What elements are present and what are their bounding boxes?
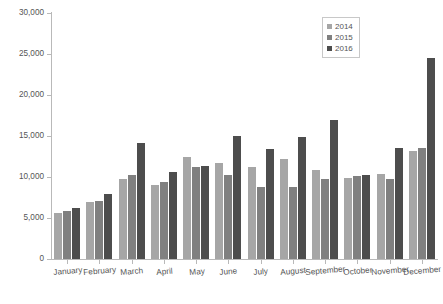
bar-september-2015 xyxy=(321,179,329,259)
y-axis-tick: 30,000 xyxy=(0,13,51,14)
bar-february-2014 xyxy=(86,202,94,259)
bar-june-2015 xyxy=(224,175,232,259)
x-tick-label-april: April xyxy=(156,267,173,278)
bar-june-2014 xyxy=(215,163,223,259)
bar-may-2014 xyxy=(183,157,191,260)
bar-december-2014 xyxy=(409,151,417,259)
bar-december-2015 xyxy=(418,148,426,259)
x-tick-mark xyxy=(293,260,294,264)
y-axis-tick: 0 xyxy=(0,259,51,260)
bar-february-2016 xyxy=(104,194,112,259)
bar-may-2016 xyxy=(201,166,209,259)
x-tick-mark xyxy=(228,260,229,264)
y-tick-label: 10,000 xyxy=(19,171,44,182)
legend-label: 2015 xyxy=(335,33,353,43)
bar-july-2015 xyxy=(257,187,265,259)
y-tick-label: 20,000 xyxy=(19,89,44,100)
y-axis-tick: 5,000 xyxy=(0,218,51,219)
x-tick-label-september: September xyxy=(305,265,346,278)
y-axis-tick: 25,000 xyxy=(0,54,51,55)
x-tick-label-may: May xyxy=(189,267,205,278)
bar-december-2016 xyxy=(427,58,435,259)
bar-november-2016 xyxy=(395,148,403,259)
x-tick-label-june: June xyxy=(219,266,238,278)
x-tick-label-february: February xyxy=(83,265,117,278)
bar-january-2014 xyxy=(54,213,62,259)
bar-february-2015 xyxy=(95,201,103,259)
bar-chart: 05,00010,00015,00020,00025,00030,000 Jan… xyxy=(0,0,443,304)
x-tick-mark xyxy=(422,260,423,264)
x-tick-mark xyxy=(132,260,133,264)
x-axis-line xyxy=(51,259,438,260)
legend-label: 2016 xyxy=(335,44,353,54)
y-tick-label: 30,000 xyxy=(19,7,44,18)
bar-april-2015 xyxy=(160,182,168,259)
x-tick-label-march: March xyxy=(120,266,144,278)
y-axis-tick: 10,000 xyxy=(0,177,51,178)
bar-may-2015 xyxy=(192,167,200,259)
x-tick-mark xyxy=(357,260,358,264)
bar-april-2016 xyxy=(169,172,177,259)
legend-label: 2014 xyxy=(335,22,353,32)
bar-july-2014 xyxy=(248,167,256,259)
x-tick-mark xyxy=(164,260,165,264)
bar-june-2016 xyxy=(233,136,241,259)
y-tick-label: 0 xyxy=(39,253,44,264)
bar-november-2014 xyxy=(377,174,385,259)
y-tick-label: 25,000 xyxy=(19,48,44,59)
y-tick-label: 5,000 xyxy=(24,212,45,223)
x-tick-label-august: August xyxy=(280,266,306,278)
y-tick-mark xyxy=(47,259,51,260)
bar-august-2016 xyxy=(298,137,306,259)
bar-october-2015 xyxy=(353,176,361,259)
bar-november-2015 xyxy=(386,179,394,259)
bar-august-2014 xyxy=(280,159,288,259)
legend-swatch-icon xyxy=(327,46,332,51)
x-tick-label-january: January xyxy=(53,265,83,278)
chart-legend: 201420152016 xyxy=(322,17,360,58)
legend-item-2014[interactable]: 2014 xyxy=(327,21,353,32)
x-tick-mark xyxy=(196,260,197,264)
bar-october-2014 xyxy=(344,178,352,259)
bar-january-2016 xyxy=(72,208,80,259)
bar-september-2014 xyxy=(312,170,320,259)
y-axis-tick: 15,000 xyxy=(0,136,51,137)
bar-march-2016 xyxy=(137,143,145,259)
x-tick-label-december: December xyxy=(403,265,442,278)
x-tick-label-july: July xyxy=(253,267,268,278)
bar-april-2014 xyxy=(151,185,159,259)
legend-swatch-icon xyxy=(327,24,332,29)
bar-september-2016 xyxy=(330,120,338,259)
x-tick-label-october: October xyxy=(343,265,373,278)
x-tick-mark xyxy=(261,260,262,264)
bar-july-2016 xyxy=(266,149,274,259)
legend-item-2015[interactable]: 2015 xyxy=(327,32,353,43)
y-axis-tick: 20,000 xyxy=(0,95,51,96)
y-tick-label: 15,000 xyxy=(19,130,44,141)
bar-october-2016 xyxy=(362,175,370,259)
x-tick-mark xyxy=(390,260,391,264)
x-tick-mark xyxy=(67,260,68,264)
legend-swatch-icon xyxy=(327,35,332,40)
x-tick-mark xyxy=(99,260,100,264)
bar-march-2015 xyxy=(128,175,136,259)
legend-item-2016[interactable]: 2016 xyxy=(327,43,353,54)
plot-area xyxy=(51,13,438,259)
bar-august-2015 xyxy=(289,187,297,259)
bar-january-2015 xyxy=(63,211,71,259)
x-tick-mark xyxy=(325,260,326,264)
bar-march-2014 xyxy=(119,179,127,259)
